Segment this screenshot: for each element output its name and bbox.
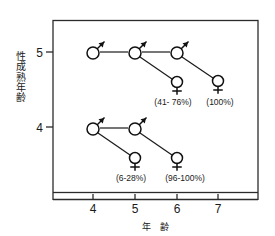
marker-female-upper-7 (213, 76, 224, 94)
x-tick-label-7: 7 (215, 202, 222, 216)
y-axis-label: 性 成 熟 年 齢 (13, 52, 29, 103)
marker-male-lower-5 (129, 118, 146, 135)
connector-m5-f6-lower (140, 133, 172, 155)
annotation-lower-left: (6-28%) (116, 173, 146, 183)
y-axis-label-char-4: 齢 (16, 93, 26, 103)
annotation-lower-right: (96-100%) (165, 173, 205, 183)
x-axis-label: 年 齢 (142, 221, 172, 232)
x-tick-label-5: 5 (132, 202, 139, 216)
x-axis (53, 193, 258, 200)
chart-figure: 5 4 4 5 6 7 年 齢 (0, 0, 275, 236)
marker-male-upper-6 (171, 42, 188, 59)
connector-m6-f7-upper (182, 57, 213, 78)
chart-svg: 5 4 4 5 6 7 年 齢 (0, 0, 275, 236)
y-axis-ticks (46, 52, 53, 127)
marker-male-upper-5 (129, 42, 146, 59)
marker-male-lower-4 (87, 118, 104, 135)
marker-female-lower-6 (172, 153, 183, 171)
marker-female-lower-5 (130, 153, 141, 171)
connector-m4-f5-lower (98, 133, 130, 155)
lower-group: (6-28%) (96-100%) (87, 118, 205, 183)
y-tick-label-5: 5 (36, 46, 43, 60)
marker-male-upper-4 (87, 42, 104, 59)
marker-female-upper-6 (172, 77, 183, 95)
annotation-upper-right: (100%) (206, 97, 234, 107)
y-tick-label-4: 4 (36, 121, 43, 135)
x-tick-label-4: 4 (90, 202, 97, 216)
upper-group: (41- 76%) (100%) (87, 42, 234, 107)
annotation-upper-left: (41- 76%) (154, 97, 191, 107)
connector-m5-f6-upper (140, 57, 172, 79)
x-tick-label-6: 6 (174, 202, 181, 216)
